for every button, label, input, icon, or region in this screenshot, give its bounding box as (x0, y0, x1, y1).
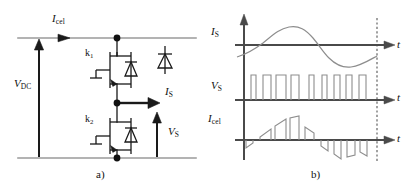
label-v-dc: VDC (14, 78, 32, 91)
label-v-s-plot: VS (211, 80, 222, 93)
switch-k2-emitter-arrow (111, 146, 118, 153)
panel-b-waveforms: IS VS Icel t t t b) (205, 0, 415, 192)
switch-k1-emitter-arrow (111, 80, 118, 87)
node-bottom (114, 155, 121, 162)
free-diode (158, 46, 172, 74)
i-s-trace (237, 27, 377, 68)
label-k1: k1 (85, 48, 94, 60)
label-i-s-plot: IS (211, 26, 219, 39)
v-s-arrow (153, 112, 162, 157)
label-v-s-circuit: VS (168, 126, 179, 139)
label-i-s-circuit: IS (165, 86, 173, 99)
v-dc-arrow (34, 39, 43, 157)
caption-b: b) (311, 168, 320, 180)
axis-label-t-i-s: t (397, 39, 400, 50)
axis-label-t-v-s: t (397, 92, 400, 103)
waveform-plots (205, 0, 415, 192)
caption-a: a) (96, 168, 105, 180)
node-mid (114, 100, 121, 107)
v-s-trace (251, 75, 366, 100)
axis-label-t-i-cel: t (397, 133, 400, 144)
i-cel-arrow (58, 34, 70, 42)
diode-k1 (117, 52, 137, 88)
figure-root: Icel VDC k1 k2 IS VS a) (0, 0, 415, 192)
circuit-schematic (0, 0, 210, 192)
node-top (114, 35, 121, 42)
diode-k2 (117, 118, 137, 154)
label-i-cel-circuit: Icel (52, 13, 65, 26)
i-cel-trace (246, 116, 367, 159)
label-i-cel-plot: Icel (208, 113, 221, 126)
panel-a-circuit: Icel VDC k1 k2 IS VS a) (0, 0, 210, 192)
label-k2: k2 (85, 114, 94, 126)
i-s-arrow (119, 98, 160, 109)
